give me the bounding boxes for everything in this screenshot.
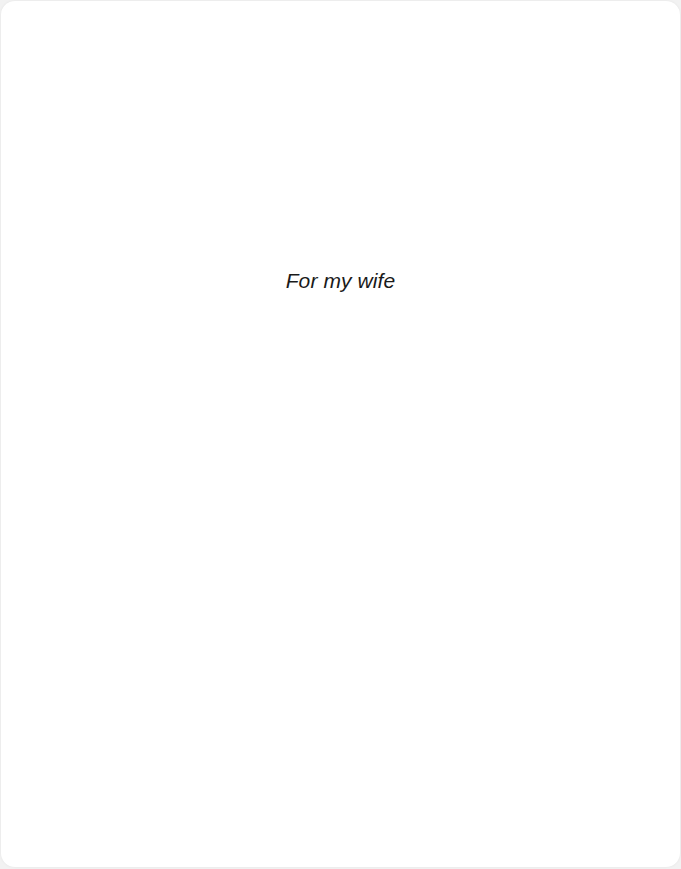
dedication-text: For my wife [1, 269, 680, 293]
book-page: For my wife [1, 1, 680, 867]
